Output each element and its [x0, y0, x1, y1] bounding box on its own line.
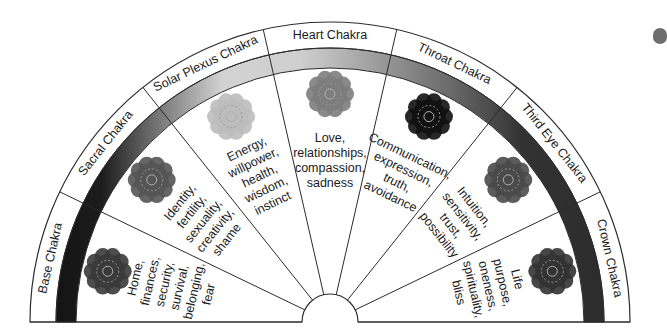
base-mandala-icon [84, 248, 132, 294]
sacral-mandala-icon [128, 157, 176, 203]
third-eye-mandala-icon [484, 157, 532, 203]
heart-mandala-icon [306, 71, 354, 117]
solar-plexus-mandala-icon [207, 93, 255, 139]
edge-fragment [653, 28, 667, 44]
label-heart-chakra: Heart Chakra [293, 28, 367, 42]
crown-mandala-icon [528, 248, 576, 294]
throat-mandala-icon [405, 93, 453, 139]
